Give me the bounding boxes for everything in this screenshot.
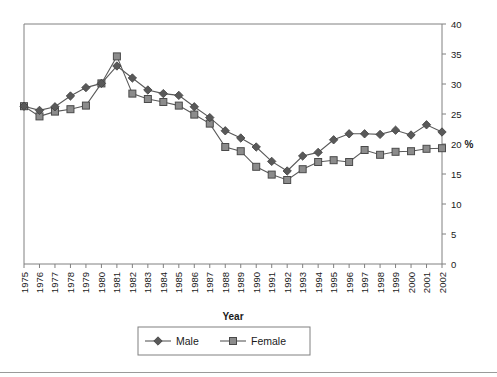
data-point — [391, 126, 399, 134]
y-tick-label: 0 — [451, 259, 456, 270]
x-tick-label: 1987 — [204, 272, 215, 293]
data-point — [190, 103, 198, 111]
data-point — [82, 83, 90, 91]
data-point — [299, 166, 306, 173]
x-tick-label: 1988 — [220, 272, 231, 293]
data-point — [360, 130, 368, 138]
data-point — [377, 151, 384, 158]
data-point — [159, 89, 167, 97]
data-point — [439, 145, 446, 152]
x-tick-label: 1980 — [96, 272, 107, 293]
data-point — [345, 130, 353, 138]
data-point — [175, 102, 182, 109]
x-tick-label: 1996 — [344, 272, 355, 293]
data-point — [423, 145, 430, 152]
legend-label: Female — [251, 335, 286, 347]
legend: MaleFemale — [138, 327, 310, 355]
data-point — [284, 177, 291, 184]
x-tick-label: 1998 — [375, 272, 386, 293]
series-line — [24, 56, 442, 180]
x-tick-label: 2002 — [437, 272, 448, 293]
x-tick-label: 1979 — [80, 272, 91, 293]
y-tick-label: 15 — [451, 169, 462, 180]
x-tick-label: 1978 — [65, 272, 76, 293]
data-point — [67, 106, 74, 113]
x-tick-label: 1990 — [251, 272, 262, 293]
data-point — [82, 102, 89, 109]
data-point — [361, 147, 368, 154]
x-tick-label: 2001 — [421, 272, 432, 293]
data-point — [191, 111, 198, 118]
x-axis-title: Year — [222, 311, 243, 322]
data-point — [268, 171, 275, 178]
data-point — [222, 144, 229, 151]
plot-axes — [24, 24, 442, 264]
x-tick-label: 1992 — [282, 272, 293, 293]
y-axis-title: % — [465, 139, 474, 150]
x-tick-label: 1984 — [158, 272, 169, 293]
data-point — [346, 159, 353, 166]
x-tick-label: 1976 — [34, 272, 45, 293]
data-point — [330, 157, 337, 164]
y-tick-label: 35 — [451, 49, 462, 60]
legend-label: Male — [176, 335, 199, 347]
x-tick-label: 1986 — [189, 272, 200, 293]
chart-figure: 0510152025303540%19751976197719781979198… — [0, 0, 497, 377]
plot-border — [24, 24, 442, 264]
x-tick-label: 1993 — [297, 272, 308, 293]
data-point — [237, 148, 244, 155]
x-tick-label: 1982 — [127, 272, 138, 293]
series-female — [21, 53, 446, 184]
data-point — [253, 163, 260, 170]
y-tick-label: 25 — [451, 109, 462, 120]
y-tick-label: 10 — [451, 199, 462, 210]
data-point — [392, 148, 399, 155]
data-point — [315, 159, 322, 166]
x-tick-label: 1981 — [111, 272, 122, 293]
bottom-divider — [0, 372, 497, 373]
data-point — [113, 53, 120, 60]
data-point — [438, 128, 446, 136]
line-chart: 0510152025303540%19751976197719781979198… — [0, 0, 497, 377]
data-point — [376, 130, 384, 138]
x-tick-label: 1985 — [173, 272, 184, 293]
y-axis: 0510152025303540 — [442, 19, 462, 270]
data-point — [175, 91, 183, 99]
x-tick-label: 1995 — [328, 272, 339, 293]
x-tick-label: 1989 — [235, 272, 246, 293]
y-tick-label: 20 — [451, 139, 462, 150]
y-tick-label: 40 — [451, 19, 462, 30]
x-tick-label: 1977 — [49, 272, 60, 293]
x-tick-label: 1983 — [142, 272, 153, 293]
y-tick-label: 5 — [451, 229, 456, 240]
x-tick-label: 1975 — [19, 272, 30, 293]
data-point — [160, 99, 167, 106]
x-axis: 1975197619771978197919801981198219831984… — [19, 264, 448, 293]
data-point — [144, 96, 151, 103]
data-point — [407, 131, 415, 139]
data-point — [129, 90, 136, 97]
x-tick-label: 1997 — [359, 272, 370, 293]
x-tick-label: 1994 — [313, 272, 324, 293]
data-point — [408, 148, 415, 155]
legend-marker — [230, 338, 237, 345]
x-tick-label: 2000 — [406, 272, 417, 293]
x-tick-label: 1999 — [390, 272, 401, 293]
data-point — [422, 121, 430, 129]
y-tick-label: 30 — [451, 79, 462, 90]
data-point — [66, 92, 74, 100]
x-tick-label: 1991 — [266, 272, 277, 293]
data-point — [237, 134, 245, 142]
